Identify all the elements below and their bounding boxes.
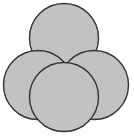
front-circle	[30, 63, 99, 132]
circle-cluster-diagram	[0, 0, 134, 136]
figure-canvas	[0, 0, 134, 136]
